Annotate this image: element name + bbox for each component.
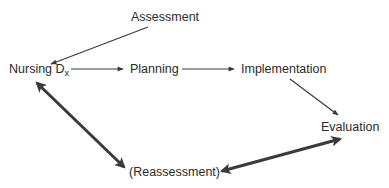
node-reassessment-label: (Reassessment) bbox=[129, 165, 220, 179]
node-nursing-diagnosis-subscript: x bbox=[65, 68, 70, 78]
node-assessment: Assessment bbox=[131, 10, 199, 24]
node-evaluation: Evaluation bbox=[321, 120, 379, 134]
arrow-reassessment-evaluation-bidirectional bbox=[222, 139, 340, 171]
node-nursing-diagnosis-label: Nursing D bbox=[9, 62, 65, 76]
node-assessment-label: Assessment bbox=[131, 10, 199, 24]
node-planning-label: Planning bbox=[130, 62, 179, 76]
arrow-implementation-to-evaluation bbox=[290, 79, 338, 115]
node-implementation-label: Implementation bbox=[241, 62, 326, 76]
nursing-process-diagram: Assessment Nursing Dx Planning Implement… bbox=[0, 0, 389, 188]
node-implementation: Implementation bbox=[241, 62, 326, 76]
node-evaluation-label: Evaluation bbox=[321, 120, 379, 134]
node-planning: Planning bbox=[130, 62, 179, 76]
arrow-assessment-to-nursing-dx bbox=[51, 27, 148, 64]
node-reassessment: (Reassessment) bbox=[129, 165, 220, 179]
arrow-nursing-dx-reassessment-bidirectional bbox=[37, 83, 124, 167]
node-nursing-diagnosis: Nursing Dx bbox=[9, 62, 69, 76]
arrows-layer bbox=[0, 0, 389, 188]
